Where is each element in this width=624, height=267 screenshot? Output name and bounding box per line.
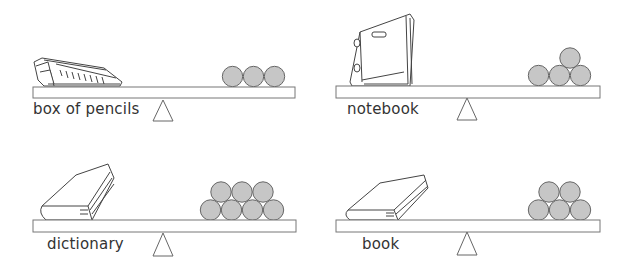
balance-plank <box>33 220 296 232</box>
balance-plank <box>336 86 600 98</box>
fulcrum-triangle <box>457 98 477 120</box>
pencil-box-icon <box>34 58 122 86</box>
notebook-icon <box>350 14 414 86</box>
weight-balls <box>222 66 284 86</box>
book-icon <box>346 175 428 220</box>
object-label-box-of-pencils: box of pencils <box>33 100 140 118</box>
weight-balls <box>200 182 283 220</box>
weight-balls <box>528 182 590 220</box>
object-label-book: book <box>362 235 399 253</box>
object-label-notebook: notebook <box>347 100 419 118</box>
fulcrum-triangle <box>457 232 477 255</box>
object-label-dictionary: dictionary <box>47 235 124 253</box>
fulcrum-triangle <box>153 100 173 121</box>
book-icon <box>41 164 114 220</box>
balance-plank <box>33 87 295 98</box>
fulcrum-triangle <box>153 233 173 256</box>
weight-balls <box>528 48 590 86</box>
balance-diagram <box>0 0 624 267</box>
balance-plank <box>336 220 600 232</box>
